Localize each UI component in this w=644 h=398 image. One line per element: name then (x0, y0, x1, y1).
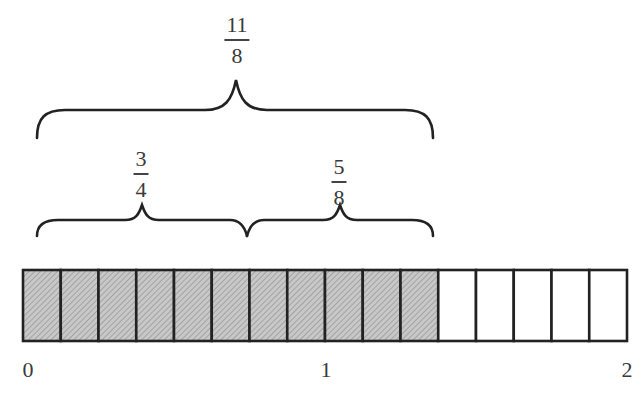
fraction-denominator: 8 (332, 187, 347, 209)
tape-cell-shaded (287, 270, 325, 341)
tape-cell-shaded (363, 270, 401, 341)
tape-cell-shaded (61, 270, 99, 341)
fraction-bar (224, 39, 249, 41)
fraction-denominator: 8 (224, 45, 249, 67)
tape-cell-empty (476, 270, 514, 341)
brace-total (37, 80, 433, 138)
fraction-bar (332, 181, 347, 183)
axis-label-one: 1 (321, 357, 332, 383)
fraction-three-fourths: 3 4 (134, 148, 149, 201)
tape-cell-shaded (401, 270, 439, 341)
axis-label-zero: 0 (23, 357, 34, 383)
fraction-total: 11 8 (224, 14, 249, 67)
fraction-numerator: 11 (224, 14, 249, 36)
fraction-numerator: 3 (134, 148, 149, 170)
tape-cell-empty (589, 270, 627, 341)
tape-cell-shaded (99, 270, 137, 341)
tape-cell-empty (514, 270, 552, 341)
axis-label-two: 2 (622, 357, 633, 383)
tape-cell-shaded (212, 270, 250, 341)
fraction-bar (134, 173, 149, 175)
tape-cell-empty (552, 270, 590, 341)
brace-five-eighths (247, 205, 433, 236)
tape-diagram-canvas (0, 0, 644, 398)
fraction-numerator: 5 (332, 156, 347, 178)
fraction-denominator: 4 (134, 179, 149, 201)
tape-cell-shaded (136, 270, 174, 341)
tape-cell-shaded (174, 270, 212, 341)
tape-bar (23, 270, 627, 341)
tape-cell-empty (438, 270, 476, 341)
brace-three-fourths (37, 205, 247, 236)
tape-cell-shaded (23, 270, 61, 341)
tape-cell-shaded (325, 270, 363, 341)
tape-cell-shaded (250, 270, 288, 341)
fraction-five-eighths: 5 8 (332, 156, 347, 209)
